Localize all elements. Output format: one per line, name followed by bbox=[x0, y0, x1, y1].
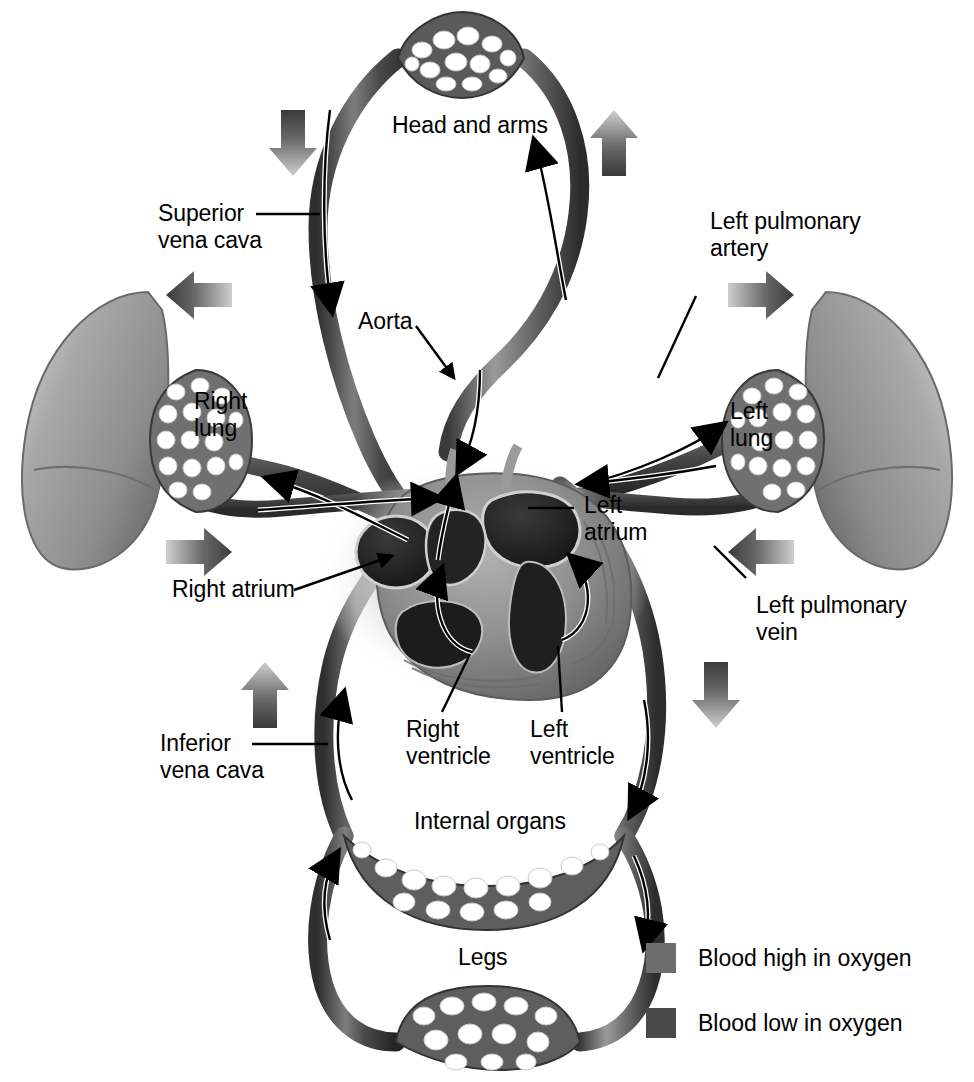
label-head-and-arms: Head and arms bbox=[392, 112, 548, 139]
label-left-pulmonary-artery: Left pulmonary artery bbox=[710, 208, 861, 262]
deoxygenated-blood-swatch bbox=[646, 1008, 676, 1038]
label-inferior-vena-cava: Inferior vena cava bbox=[160, 730, 264, 784]
legend-item-oxygen-low: Blood low in oxygen bbox=[646, 1008, 903, 1038]
oxygenated-blood-swatch bbox=[646, 943, 676, 973]
label-right-ventricle: Right ventricle bbox=[406, 716, 491, 770]
right-lung-organ bbox=[22, 292, 168, 570]
flow-arrow-top-right-up bbox=[590, 110, 638, 176]
head-and-arms-capillary-bed bbox=[398, 12, 524, 98]
flow-arrow-top-left-down bbox=[269, 110, 317, 176]
flow-arrow-left-in bbox=[166, 528, 232, 576]
flow-arrow-bottom-right-down bbox=[692, 662, 740, 728]
label-left-lung: Left lung bbox=[730, 398, 773, 452]
legs-capillary-bed bbox=[396, 986, 580, 1070]
leader-aorta bbox=[416, 326, 454, 378]
label-left-atrium: Left atrium bbox=[584, 492, 647, 546]
label-left-ventricle: Left ventricle bbox=[530, 716, 615, 770]
circulatory-system-diagram: Head and arms Superior vena cava Aorta L… bbox=[0, 0, 974, 1082]
internal-organs-capillary-bed bbox=[344, 836, 624, 930]
label-internal-organs: Internal organs bbox=[414, 808, 566, 835]
label-right-lung: Right lung bbox=[194, 388, 247, 442]
diagram-illustration bbox=[0, 0, 974, 1082]
flow-arrow-right-out bbox=[728, 271, 794, 319]
leader-left-pulmonary-artery bbox=[658, 296, 696, 378]
flow-arrow-bottom-left-up bbox=[241, 662, 289, 728]
flow-arrow-left-out bbox=[166, 271, 232, 319]
left-lung-organ bbox=[806, 292, 952, 570]
label-superior-vena-cava: Superior vena cava bbox=[158, 200, 262, 254]
label-aorta: Aorta bbox=[358, 308, 412, 335]
label-left-pulmonary-vein: Left pulmonary vein bbox=[756, 592, 907, 646]
legend-label-oxygen-low: Blood low in oxygen bbox=[698, 1010, 903, 1037]
label-right-atrium: Right atrium bbox=[172, 576, 295, 603]
legend-item-oxygen-high: Blood high in oxygen bbox=[646, 943, 912, 973]
legend-label-oxygen-high: Blood high in oxygen bbox=[698, 945, 912, 972]
label-legs: Legs bbox=[458, 944, 507, 971]
